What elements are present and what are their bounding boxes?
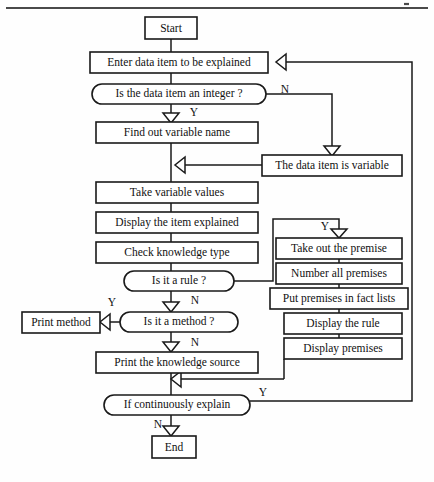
node-display-the-item-explained[interactable]: Display the item explained xyxy=(96,212,258,233)
node-print-method[interactable]: Print method xyxy=(22,312,100,333)
node-if-continuously-explain-label: If continuously explain xyxy=(124,398,231,411)
edge-isinteger-n xyxy=(266,94,332,146)
node-enter-data-item[interactable]: Enter data item to be explained xyxy=(90,52,268,73)
edge-label-is-integer-yes: Y xyxy=(190,106,199,118)
edge-label-is-rule-no: N xyxy=(191,294,200,306)
node-if-continuously-explain[interactable]: If continuously explain xyxy=(104,395,250,415)
node-display-the-item-explained-label: Display the item explained xyxy=(115,216,239,229)
page-header-rule xyxy=(6,4,428,8)
node-check-knowledge-type[interactable]: Check knowledge type xyxy=(96,242,258,263)
node-start[interactable]: Start xyxy=(145,17,197,39)
node-is-it-a-method-label: Is it a method ? xyxy=(144,315,215,327)
node-take-variable-values-label: Take variable values xyxy=(130,186,225,198)
node-check-knowledge-type-label: Check knowledge type xyxy=(124,246,229,259)
flowchart-page: Find out variable name --> right, down, … xyxy=(0,0,434,482)
arrow-isrule-n xyxy=(163,302,179,312)
node-start-label: Start xyxy=(160,22,183,34)
node-number-all-premises-label: Number all premises xyxy=(291,267,387,280)
node-display-premises-label: Display premises xyxy=(303,342,383,355)
arrow-variable-merge xyxy=(175,157,185,173)
node-put-premises-in-fact-lists-label: Put premises in fact lists xyxy=(283,292,396,305)
node-take-out-the-premise-label: Take out the premise xyxy=(291,242,387,255)
node-print-the-knowledge-source-label: Print the knowledge source xyxy=(114,356,240,369)
arrow-isrule-y xyxy=(331,229,347,238)
node-is-it-a-rule[interactable]: Is it a rule ? xyxy=(124,271,234,291)
nodes: Start Enter data item to be explained Is… xyxy=(22,17,408,458)
node-is-data-item-integer-label: Is the data item an integer ? xyxy=(115,87,242,100)
edge-label-is-method-no: N xyxy=(191,336,200,348)
node-the-data-item-is-variable[interactable]: The data item is variable xyxy=(262,155,402,176)
node-is-data-item-integer[interactable]: Is the data item an integer ? xyxy=(92,84,266,104)
arrow-continuously-n xyxy=(163,426,179,436)
node-put-premises-in-fact-lists[interactable]: Put premises in fact lists xyxy=(270,288,408,309)
node-print-method-label: Print method xyxy=(31,316,91,328)
node-display-the-rule-label: Display the rule xyxy=(306,317,379,330)
node-find-out-variable-name-label: Find out variable name xyxy=(124,126,230,138)
arrow-ismethod-n xyxy=(163,342,179,352)
node-enter-data-item-label: Enter data item to be explained xyxy=(107,56,251,69)
node-print-the-knowledge-source[interactable]: Print the knowledge source xyxy=(96,352,258,373)
arrow-ismethod-y xyxy=(100,314,110,330)
edge-label-continuously-yes: Y xyxy=(259,386,268,398)
edge-label-is-method-yes: Y xyxy=(108,296,117,308)
node-number-all-premises[interactable]: Number all premises xyxy=(276,263,402,284)
node-take-out-the-premise[interactable]: Take out the premise xyxy=(276,238,402,259)
node-is-it-a-method[interactable]: Is it a method ? xyxy=(120,312,238,332)
edge-label-is-integer-no: N xyxy=(281,83,290,95)
node-end[interactable]: End xyxy=(152,436,196,458)
node-the-data-item-is-variable-label: The data item is variable xyxy=(275,159,389,171)
edge-label-is-rule-yes: Y xyxy=(321,220,330,232)
node-find-out-variable-name[interactable]: Find out variable name xyxy=(96,122,258,143)
node-end-label: End xyxy=(165,441,184,453)
flowchart-canvas: Find out variable name --> right, down, … xyxy=(0,0,434,482)
node-display-the-rule[interactable]: Display the rule xyxy=(284,313,402,334)
arrow-continuously-y xyxy=(276,54,286,70)
node-display-premises[interactable]: Display premises xyxy=(284,338,402,359)
node-take-variable-values[interactable]: Take variable values xyxy=(96,182,258,203)
node-is-it-a-rule-label: Is it a rule ? xyxy=(152,274,206,286)
edge-label-continuously-no: N xyxy=(154,418,163,430)
